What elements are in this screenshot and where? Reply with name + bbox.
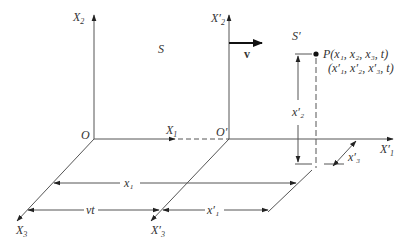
- s-prime-x3-label: X′3: [150, 223, 165, 239]
- x1-dim-label: x₁: [123, 176, 134, 190]
- x3-prime-dim-label: x′₃: [347, 150, 360, 164]
- s-x3-label: X3: [15, 223, 27, 239]
- point-p-construction: [268, 54, 356, 212]
- s-prime-frame-label: S′: [292, 29, 301, 43]
- velocity-label: v: [244, 47, 250, 61]
- horizontal-dimensions: [28, 183, 296, 210]
- footprint-slant-line: [268, 170, 312, 212]
- s-origin-label: O: [81, 128, 90, 142]
- x1-prime-dim-label: x′₁: [206, 203, 219, 217]
- x2-prime-dim-label: x′₂: [291, 105, 304, 119]
- s-x1-label: X1: [165, 123, 177, 139]
- vt-dim-label: vt: [86, 203, 95, 217]
- point-p-coords: P(x₁, x₂, x₃, t): [322, 47, 388, 61]
- s-frame-label: S: [158, 42, 164, 56]
- point-p-prime-coords: (x′₁, x′₂, x′₃, t): [328, 61, 394, 75]
- point-p-dot: [313, 51, 318, 56]
- s-prime-origin-label: O′: [216, 125, 228, 139]
- frame-s-axes: [17, 15, 229, 221]
- s-x3-axis: [17, 139, 94, 221]
- s-prime-x2-label: X′2: [210, 11, 225, 27]
- labels: X2 S O X1 X3 X′2 v S′ O′ X′1 X′3 P(x₁, x…: [15, 10, 394, 239]
- s-prime-x1-label: X′1: [379, 142, 394, 158]
- s-x2-label: X2: [72, 10, 84, 26]
- galilean-frames-diagram: X2 S O X1 X3 X′2 v S′ O′ X′1 X′3 P(x₁, x…: [0, 0, 404, 248]
- frame-s-prime-axes: [151, 15, 393, 221]
